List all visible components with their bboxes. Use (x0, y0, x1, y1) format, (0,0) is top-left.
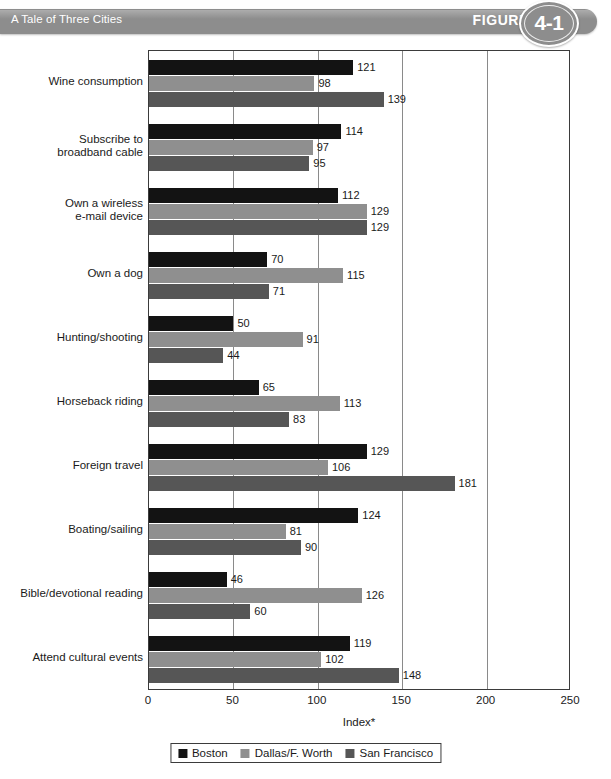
bar-group: 509144 (149, 307, 569, 371)
bar-value-label: 114 (345, 124, 363, 139)
bar-value-label: 148 (403, 668, 421, 683)
bar-group: 1149795 (149, 115, 569, 179)
bar-value-label: 181 (459, 476, 477, 491)
bar-value-label: 60 (254, 604, 266, 619)
bar (149, 252, 267, 267)
legend-label: Boston (192, 747, 228, 759)
category-label: Horseback riding (3, 395, 143, 409)
bar-value-label: 139 (388, 92, 406, 107)
bar-group: 6511383 (149, 371, 569, 435)
bar (149, 268, 343, 283)
bar-value-label: 81 (290, 524, 302, 539)
bar-group: 129106181 (149, 435, 569, 499)
bar (149, 444, 367, 459)
legend-label: Dallas/F. Worth (255, 747, 333, 759)
legend-label: San Francisco (360, 747, 434, 759)
category-label-line: Horseback riding (3, 395, 143, 409)
bar-value-label: 70 (271, 252, 283, 267)
chart-legend: BostonDallas/F. WorthSan Francisco (170, 743, 441, 763)
category-label-line: Own a dog (3, 267, 143, 281)
legend-swatch-icon (241, 749, 250, 758)
bar-value-label: 91 (307, 332, 319, 347)
bar (149, 476, 455, 491)
bar-value-label: 119 (354, 636, 372, 651)
bar (149, 508, 358, 523)
bar-value-label: 65 (263, 380, 275, 395)
bar-value-label: 112 (342, 188, 360, 203)
bar-value-label: 124 (362, 508, 380, 523)
bar (149, 652, 321, 667)
category-label-line: Hunting/shooting (3, 331, 143, 345)
bar (149, 332, 303, 347)
bar-group: 4612660 (149, 563, 569, 627)
bar-group: 119102148 (149, 627, 569, 691)
bar (149, 76, 314, 91)
category-label-line: e-mail device (3, 210, 143, 224)
x-tick-label: 0 (145, 694, 151, 706)
bar (149, 220, 367, 235)
bar-value-label: 102 (325, 652, 343, 667)
category-label-column: Wine consumptionSubscribe tobroadband ca… (0, 50, 143, 690)
bar-value-label: 106 (332, 460, 350, 475)
bar-value-label: 44 (227, 348, 239, 363)
bar (149, 284, 269, 299)
bar-value-label: 71 (273, 284, 285, 299)
category-label: Subscribe tobroadband cable (3, 133, 143, 160)
bar (149, 348, 223, 363)
bar-groups: 1219813911497951121291297011571509144651… (149, 51, 569, 689)
figure-title: A Tale of Three Cities (11, 13, 122, 25)
category-label: Foreign travel (3, 459, 143, 473)
legend-item[interactable]: Dallas/F. Worth (241, 747, 333, 759)
figure-header-bar: A Tale of Three Cities FIGURE (0, 9, 597, 34)
legend-item[interactable]: San Francisco (346, 747, 434, 759)
figure-page: A Tale of Three Cities FIGURE 4-1 Wine c… (0, 0, 611, 779)
category-label-line: broadband cable (3, 146, 143, 160)
x-axis-label: Index* (148, 716, 570, 728)
x-tick-label: 200 (476, 694, 495, 706)
x-tick-label: 250 (560, 694, 579, 706)
bar (149, 140, 313, 155)
bar-value-label: 129 (371, 204, 389, 219)
category-label: Own a dog (3, 267, 143, 281)
bar-value-label: 95 (313, 156, 325, 171)
category-label: Own a wirelesse-mail device (3, 197, 143, 224)
bar-value-label: 98 (318, 76, 330, 91)
bar (149, 636, 350, 651)
bar-value-label: 50 (237, 316, 249, 331)
bar-group: 1248190 (149, 499, 569, 563)
bar (149, 524, 286, 539)
bar-value-label: 113 (344, 396, 362, 411)
category-label-line: Boating/sailing (3, 523, 143, 537)
category-label-line: Subscribe to (3, 133, 143, 147)
bar (149, 572, 227, 587)
category-label-line: Wine consumption (3, 75, 143, 89)
category-label: Wine consumption (3, 75, 143, 89)
bar-value-label: 126 (366, 588, 384, 603)
chart-plot-area: 1219813911497951121291297011571509144651… (148, 50, 570, 690)
figure-number-badge: 4-1 (519, 0, 579, 47)
bar (149, 204, 367, 219)
category-label: Boating/sailing (3, 523, 143, 537)
bar (149, 668, 399, 683)
bar (149, 188, 338, 203)
bar (149, 588, 362, 603)
category-label: Bible/devotional reading (3, 587, 143, 601)
legend-item[interactable]: Boston (178, 747, 228, 759)
category-label-line: Attend cultural events (3, 651, 143, 665)
bar-value-label: 97 (317, 140, 329, 155)
bar-group: 12198139 (149, 51, 569, 115)
bar (149, 412, 289, 427)
category-label-line: Bible/devotional reading (3, 587, 143, 601)
bar-value-label: 121 (357, 60, 375, 75)
bar (149, 396, 340, 411)
bar (149, 92, 384, 107)
bar (149, 604, 250, 619)
bar-value-label: 129 (371, 444, 389, 459)
bar (149, 540, 301, 555)
bar-value-label: 90 (305, 540, 317, 555)
bar-value-label: 115 (347, 268, 365, 283)
bar (149, 60, 353, 75)
bar-value-label: 83 (293, 412, 305, 427)
bar-group: 112129129 (149, 179, 569, 243)
legend-swatch-icon (346, 749, 355, 758)
